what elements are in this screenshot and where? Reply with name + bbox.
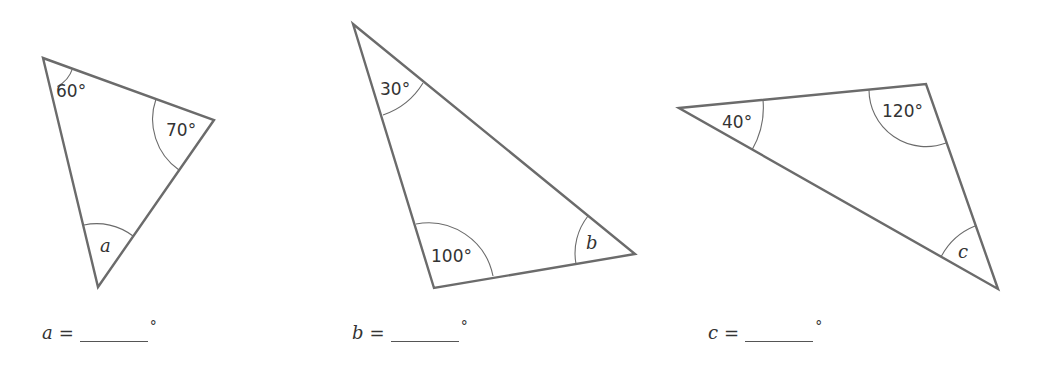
angle-label-a: a (100, 235, 111, 256)
answer-row-a: a=° (42, 318, 157, 348)
triangle-diagram: 60° 70° a 30° 100° b 40° 120° c (0, 0, 1052, 367)
angle-label-60: 60° (56, 81, 86, 101)
equals-sign: = (724, 322, 739, 343)
triangle-c: 40° 120° c (679, 84, 998, 289)
degree-symbol: ° (150, 318, 157, 334)
angle-label-70: 70° (166, 120, 196, 140)
angle-label-100: 100° (431, 246, 472, 266)
answer-row-c: c=° (708, 318, 822, 348)
answer-row-b: b=° (352, 318, 468, 348)
angle-label-120: 120° (882, 101, 923, 121)
answer-variable-c: c (708, 322, 718, 343)
angle-label-30: 30° (380, 79, 410, 99)
angle-label-b: b (586, 232, 598, 253)
degree-symbol: ° (815, 318, 822, 334)
answer-blank-a[interactable] (80, 323, 148, 342)
degree-symbol: ° (461, 318, 468, 334)
answer-variable-b: b (352, 322, 364, 343)
equals-sign: = (59, 322, 74, 343)
angle-label-40: 40° (722, 112, 752, 132)
answer-blank-b[interactable] (391, 323, 459, 342)
angle-arc-40 (752, 100, 763, 150)
equals-sign: = (370, 322, 385, 343)
triangle-b: 30° 100° b (353, 24, 635, 288)
answer-variable-a: a (42, 322, 53, 343)
answer-blank-c[interactable] (745, 323, 813, 342)
angle-label-c: c (958, 241, 968, 262)
triangle-a: 60° 70° a (43, 58, 214, 287)
